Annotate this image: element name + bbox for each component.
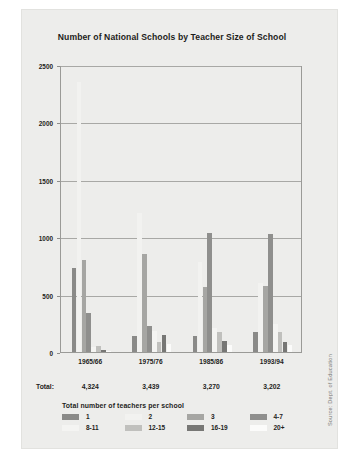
legend-item[interactable]: 8-11 — [62, 424, 125, 431]
legend-item[interactable]: 3 — [187, 413, 250, 420]
bar — [162, 335, 167, 352]
totals-row-label: Total: — [36, 383, 54, 390]
legend-item-label: 1 — [86, 413, 90, 420]
bar — [258, 283, 263, 352]
bar — [86, 313, 91, 352]
legend-item[interactable]: 4-7 — [250, 413, 313, 420]
y-axis-tick-label: 1500 — [19, 177, 53, 184]
chart-figure-panel: Number of National Schools by Teacher Si… — [22, 10, 337, 448]
x-axis-category-label: 1985/86 — [181, 358, 241, 365]
legend-item-label: 20+ — [274, 424, 285, 431]
legend-item[interactable]: 12-15 — [125, 424, 188, 431]
x-axis-category-label: 1975/76 — [121, 358, 181, 365]
legend-item-label: 16-19 — [211, 424, 228, 431]
legend-color-swatch — [250, 425, 267, 431]
y-axis-tick-mark — [57, 296, 60, 297]
bar — [101, 350, 106, 352]
legend-color-swatch — [250, 414, 267, 420]
chart-legend: Total number of teachers per school 1234… — [62, 402, 312, 435]
gridline — [61, 66, 301, 67]
y-axis-tick-label: 500 — [19, 292, 53, 299]
bar — [203, 287, 208, 352]
y-axis-tick-mark — [57, 66, 60, 67]
y-axis-tick-mark — [57, 353, 60, 354]
y-axis-tick-mark — [57, 123, 60, 124]
bar — [227, 345, 232, 352]
bar — [91, 347, 96, 352]
category-total-value: 3,202 — [242, 383, 302, 390]
x-axis-category-label: 1993/94 — [242, 358, 302, 365]
bar — [217, 332, 222, 352]
y-axis-tick-label: 2500 — [19, 63, 53, 70]
gridline — [61, 181, 301, 182]
legend-color-swatch — [187, 414, 204, 420]
legend-title: Total number of teachers per school — [62, 402, 312, 409]
bar — [142, 254, 147, 352]
legend-color-swatch — [125, 414, 142, 420]
bar — [268, 234, 273, 352]
bar — [207, 233, 212, 352]
bar — [193, 336, 198, 352]
y-axis-tick-label: 1000 — [19, 235, 53, 242]
bar — [137, 213, 142, 352]
legend-item-label: 3 — [211, 413, 215, 420]
legend-item-label: 8-11 — [86, 424, 99, 431]
bar — [278, 332, 283, 352]
y-axis-tick-mark — [57, 181, 60, 182]
gridline — [61, 123, 301, 124]
bar — [253, 332, 258, 352]
category-total-value: 4,324 — [60, 383, 120, 390]
plot-area — [60, 66, 302, 353]
bar — [283, 342, 288, 352]
bar — [147, 326, 152, 352]
legend-item[interactable]: 1 — [62, 413, 125, 420]
legend-item[interactable]: 20+ — [250, 424, 313, 431]
screenshot-page: Number of National Schools by Teacher Si… — [0, 0, 359, 472]
source-note: Source: Dept. of Education — [327, 354, 333, 426]
bar — [77, 82, 82, 352]
bar — [263, 286, 268, 352]
bar — [82, 260, 87, 352]
chart-title: Number of National Schools by Teacher Si… — [22, 32, 322, 42]
legend-row-top: 1234-7 — [62, 413, 312, 420]
bar — [222, 341, 227, 352]
category-total-value: 3,439 — [121, 383, 181, 390]
legend-row-bottom: 8-1112-1516-1920+ — [62, 424, 312, 431]
y-axis-tick-label: 0 — [19, 350, 53, 357]
bar — [96, 346, 101, 352]
legend-item-label: 2 — [149, 413, 153, 420]
bar — [273, 324, 278, 352]
legend-color-swatch — [62, 425, 79, 431]
y-axis-tick-label: 2000 — [19, 120, 53, 127]
category-total-value: 3,270 — [181, 383, 241, 390]
bar — [157, 342, 162, 352]
legend-color-swatch — [125, 425, 142, 431]
legend-color-swatch — [62, 414, 79, 420]
bar — [72, 268, 77, 352]
legend-item-label: 12-15 — [149, 424, 166, 431]
bar — [198, 262, 203, 352]
bar — [288, 345, 293, 352]
y-axis-tick-mark — [57, 238, 60, 239]
legend-item[interactable]: 16-19 — [187, 424, 250, 431]
bar — [152, 331, 157, 352]
bar — [212, 328, 217, 352]
bar — [106, 351, 111, 352]
legend-item-label: 4-7 — [274, 413, 283, 420]
legend-color-swatch — [187, 425, 204, 431]
legend-item[interactable]: 2 — [125, 413, 188, 420]
x-axis-category-label: 1965/66 — [60, 358, 120, 365]
bar — [132, 336, 137, 352]
bar — [167, 344, 172, 352]
gridline — [61, 238, 301, 239]
